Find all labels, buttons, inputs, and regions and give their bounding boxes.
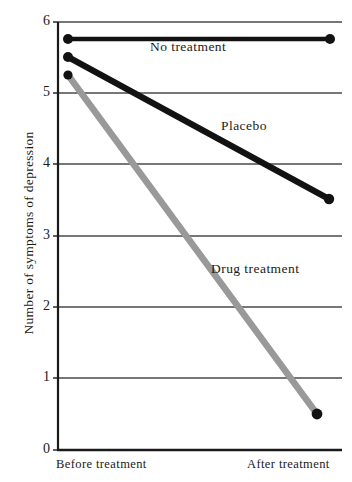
- data-point-drug-after: [312, 409, 323, 420]
- data-point-placebo-before: [63, 52, 73, 62]
- chart-plot-area: [0, 0, 352, 482]
- y-axis-title-wrapper: Number of symptoms of depression: [19, 103, 39, 363]
- depression-symptoms-line-chart: 6 5 4 3 2 1 0 Number of symptoms of depr…: [0, 0, 352, 482]
- y-tick-label-6: 6: [26, 14, 50, 28]
- series-annotation-placebo: Placebo: [221, 118, 267, 134]
- data-point-no-treatment-after: [325, 34, 335, 44]
- data-point-placebo-after: [324, 194, 334, 204]
- data-point-no-treatment-before: [63, 34, 73, 44]
- y-tick-label-1: 1: [26, 370, 50, 384]
- data-point-drug-before: [63, 70, 72, 79]
- series-annotation-no-treatment: No treatment: [150, 39, 226, 55]
- y-tick-label-5: 5: [26, 85, 50, 99]
- y-tick-label-0: 0: [26, 442, 50, 456]
- y-axis-title: Number of symptoms of depression: [21, 131, 36, 334]
- series-annotation-drug-treatment: Drug treatment: [211, 261, 299, 277]
- x-tick-label-after: After treatment: [247, 457, 330, 471]
- x-tick-label-before: Before treatment: [56, 457, 147, 471]
